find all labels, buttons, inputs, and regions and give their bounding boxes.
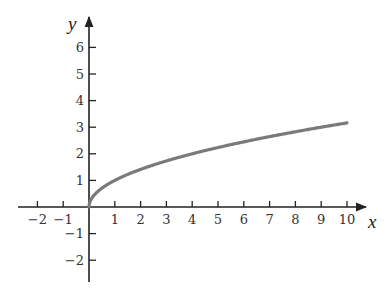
y-tick-label: 6	[76, 40, 84, 55]
y-tick-label: 3	[76, 120, 84, 135]
x-tick-label: −2	[28, 212, 47, 227]
x-tick-label: 1	[111, 212, 119, 227]
x-tick-label: 8	[291, 212, 299, 227]
x-tick-label: 5	[214, 212, 222, 227]
x-tick-label: 3	[162, 212, 170, 227]
y-tick-label: 4	[76, 93, 84, 108]
y-axis-ticks: 654321−1−2	[65, 40, 96, 268]
x-tick-label: 4	[188, 212, 196, 227]
chart: −2−112345678910 654321−1−2 x y	[0, 0, 389, 291]
x-tick-label: −1	[54, 212, 73, 227]
y-axis-label: y	[66, 13, 77, 34]
x-tick-label: 9	[317, 212, 325, 227]
y-tick-label: 2	[76, 146, 84, 161]
x-tick-label: 7	[265, 212, 273, 227]
y-tick-label: 1	[76, 173, 84, 188]
y-tick-label: −1	[65, 226, 84, 241]
x-axis-label: x	[367, 211, 377, 232]
y-tick-label: 5	[76, 67, 84, 82]
x-axis-ticks: −2−112345678910	[28, 201, 355, 227]
axes	[18, 17, 366, 282]
x-tick-label: 2	[136, 212, 144, 227]
y-tick-label: −2	[65, 253, 84, 268]
x-tick-label: 10	[339, 212, 356, 227]
x-tick-label: 6	[240, 212, 248, 227]
sqrt-curve	[89, 123, 347, 207]
plot-series	[89, 123, 347, 207]
